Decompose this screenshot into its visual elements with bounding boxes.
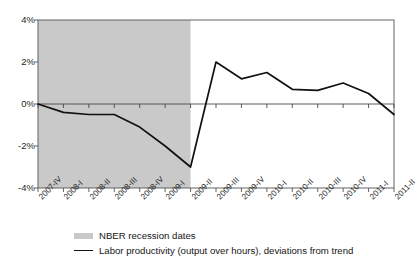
legend-item-label: Labor productivity (output over hours), …	[99, 245, 353, 256]
line-chart-canvas	[0, 0, 408, 200]
y-axis-tick-label: 4%	[3, 15, 35, 25]
chart-legend: NBER recession dates Labor productivity …	[0, 228, 408, 262]
legend-item-productivity: Labor productivity (output over hours), …	[74, 244, 353, 257]
y-axis-tick-label: 0%	[3, 99, 35, 109]
y-axis-tick-label: 2%	[3, 57, 35, 67]
recession-band-swatch-icon	[74, 233, 93, 239]
plot-area: 4%2%0%-2%-4%	[0, 0, 408, 200]
legend-item-recession: NBER recession dates	[74, 229, 196, 242]
line-swatch-icon	[74, 250, 93, 251]
y-axis-tick-labels: 4%2%0%-2%-4%	[0, 0, 35, 200]
legend-item-label: NBER recession dates	[99, 230, 196, 241]
y-axis-tick-label: -2%	[3, 141, 35, 151]
